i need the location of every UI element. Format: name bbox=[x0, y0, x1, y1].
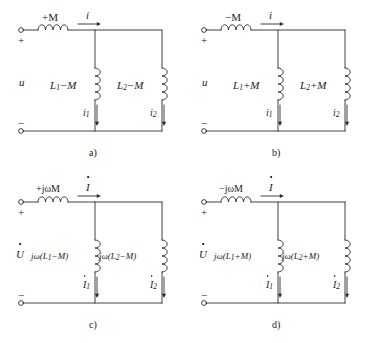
circuit-panel-d: +−U−jωMIjω(L1+M)jω(L2+M)I1I2d) bbox=[183, 172, 366, 343]
terminal-plus-sign-d: + bbox=[201, 207, 207, 218]
series-impedance-label-d: −jωM bbox=[219, 184, 243, 194]
branch2-current-label-c: I2 bbox=[150, 280, 157, 291]
panel-caption-c: c) bbox=[89, 320, 97, 330]
series-current-label-d: I bbox=[269, 182, 273, 193]
branch2-impedance-label-d: jω(L2+M) bbox=[282, 252, 319, 262]
source-voltage-label-d: U bbox=[199, 249, 207, 260]
circuit-panel-c: +−U+jωMIjω(L1−M)jω(L2−M)I1I2c) bbox=[0, 172, 183, 343]
circuit-panel-b: +−u−MiL1+ML2+Mi1i2b) bbox=[183, 0, 366, 171]
series-current-label-b: i bbox=[269, 10, 272, 21]
series-impedance-label-c: +jωM bbox=[36, 184, 60, 194]
branch1-current-label-a: i1 bbox=[83, 108, 90, 119]
series-impedance-label-b: −M bbox=[225, 12, 241, 23]
source-voltage-label-c: U bbox=[16, 249, 24, 260]
panel-caption-d: d) bbox=[272, 320, 280, 330]
source-voltage-label-a: u bbox=[19, 77, 25, 88]
branch1-impedance-label-b: L1+M bbox=[233, 80, 259, 92]
terminal-minus-sign-a: − bbox=[18, 118, 24, 129]
series-impedance-label-a: +M bbox=[42, 12, 58, 23]
series-current-label-a: i bbox=[86, 10, 89, 21]
branch1-current-label-b: i1 bbox=[266, 108, 273, 119]
branch1-current-label-c: I1 bbox=[83, 280, 90, 291]
terminal-minus-sign-c: − bbox=[18, 290, 24, 301]
terminal-minus-sign-d: − bbox=[201, 290, 207, 301]
branch2-current-label-a: i2 bbox=[150, 108, 157, 119]
circuit-schematic-d bbox=[183, 172, 366, 343]
branch2-impedance-label-c: jω(L2−M) bbox=[99, 252, 136, 262]
branch1-current-label-d: I1 bbox=[266, 280, 273, 291]
source-voltage-label-b: u bbox=[202, 77, 208, 88]
branch2-current-label-d: I2 bbox=[333, 280, 340, 291]
circuit-panel-a: +−u+MiL1−ML2−Mi1i2a) bbox=[0, 0, 183, 171]
branch2-current-label-b: i2 bbox=[333, 108, 340, 119]
branch1-impedance-label-a: L1−M bbox=[50, 80, 76, 92]
branch1-impedance-label-d: jω(L1+M) bbox=[214, 252, 251, 262]
terminal-plus-sign-c: + bbox=[18, 207, 24, 218]
circuit-schematic-a bbox=[0, 0, 183, 171]
branch2-impedance-label-a: L2−M bbox=[117, 80, 143, 92]
series-current-label-c: I bbox=[86, 182, 90, 193]
circuit-schematic-b bbox=[183, 0, 366, 171]
branch2-impedance-label-b: L2+M bbox=[300, 80, 326, 92]
panel-caption-a: a) bbox=[89, 148, 97, 158]
terminal-minus-sign-b: − bbox=[201, 118, 207, 129]
panel-caption-b: b) bbox=[272, 148, 280, 158]
terminal-plus-sign-a: + bbox=[18, 35, 24, 46]
terminal-plus-sign-b: + bbox=[201, 35, 207, 46]
circuit-schematic-c bbox=[0, 172, 183, 343]
branch1-impedance-label-c: jω(L1−M) bbox=[31, 252, 68, 262]
